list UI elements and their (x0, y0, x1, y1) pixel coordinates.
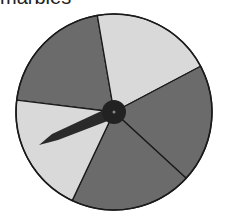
hub-pin (113, 111, 116, 114)
spinner (0, 0, 227, 218)
